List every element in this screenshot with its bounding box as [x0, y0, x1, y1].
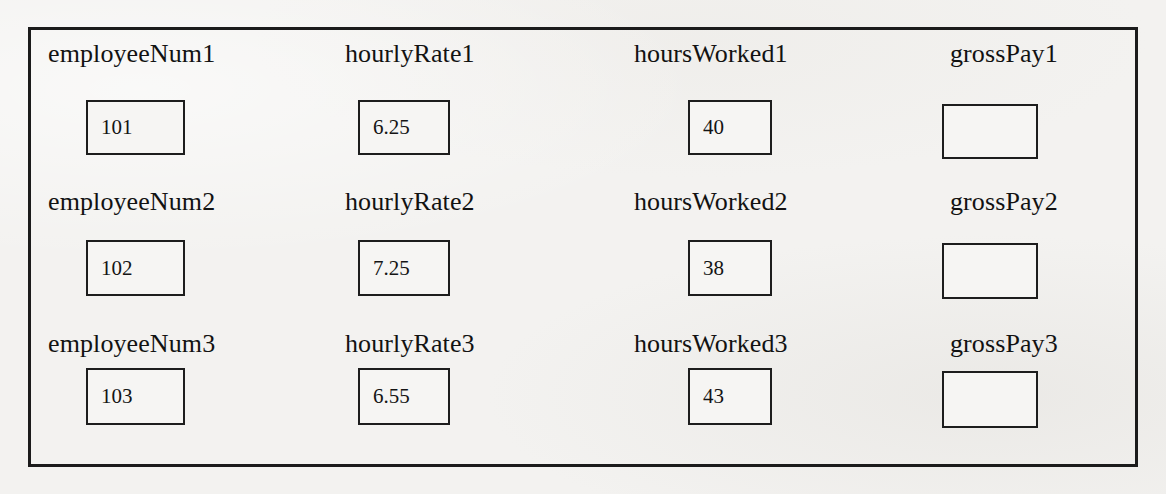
- value-text-hoursWorked3: 43: [690, 386, 724, 407]
- value-text-hoursWorked2: 38: [690, 258, 724, 279]
- value-box-grossPay2[interactable]: [942, 243, 1038, 299]
- value-box-hoursWorked3[interactable]: 43: [688, 368, 772, 425]
- field-label-grossPay3: grossPay3: [950, 331, 1058, 357]
- field-label-grossPay1: grossPay1: [950, 41, 1058, 67]
- value-box-grossPay1[interactable]: [942, 104, 1038, 159]
- value-text-employeeNum1: 101: [88, 117, 133, 138]
- value-box-employeeNum1[interactable]: 101: [86, 100, 185, 155]
- field-label-hoursWorked1: hoursWorked1: [634, 41, 788, 67]
- value-box-hourlyRate1[interactable]: 6.25: [358, 100, 450, 155]
- value-box-hourlyRate3[interactable]: 6.55: [358, 368, 450, 425]
- value-text-grossPay2: [944, 261, 957, 282]
- value-text-hourlyRate1: 6.25: [360, 117, 410, 138]
- value-box-grossPay3[interactable]: [942, 371, 1038, 428]
- field-label-hourlyRate1: hourlyRate1: [345, 41, 475, 67]
- value-text-grossPay3: [944, 389, 957, 410]
- value-text-hourlyRate3: 6.55: [360, 386, 410, 407]
- field-label-employeeNum2: employeeNum2: [48, 189, 215, 215]
- value-text-grossPay1: [944, 121, 957, 142]
- field-label-hoursWorked3: hoursWorked3: [634, 331, 788, 357]
- value-box-employeeNum3[interactable]: 103: [86, 368, 185, 425]
- value-text-hourlyRate2: 7.25: [360, 258, 410, 279]
- value-box-hoursWorked2[interactable]: 38: [688, 240, 772, 296]
- value-box-hoursWorked1[interactable]: 40: [688, 100, 772, 155]
- field-label-hoursWorked2: hoursWorked2: [634, 189, 788, 215]
- field-label-hourlyRate2: hourlyRate2: [345, 189, 475, 215]
- field-label-employeeNum1: employeeNum1: [48, 41, 215, 67]
- value-text-employeeNum2: 102: [88, 258, 133, 279]
- field-label-hourlyRate3: hourlyRate3: [345, 331, 475, 357]
- field-label-employeeNum3: employeeNum3: [48, 331, 215, 357]
- diagram-outer-frame: employeeNum1 101 hourlyRate1 6.25 hoursW…: [28, 27, 1138, 467]
- value-text-hoursWorked1: 40: [690, 117, 724, 138]
- value-box-hourlyRate2[interactable]: 7.25: [358, 240, 450, 296]
- value-text-employeeNum3: 103: [88, 386, 133, 407]
- field-label-grossPay2: grossPay2: [950, 189, 1058, 215]
- value-box-employeeNum2[interactable]: 102: [86, 240, 185, 296]
